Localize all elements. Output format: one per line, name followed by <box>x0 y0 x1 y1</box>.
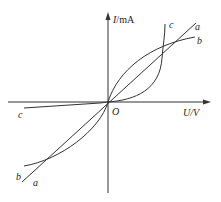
curve-b-lower-label: b <box>16 171 21 182</box>
y-axis-arrow-icon <box>106 12 111 20</box>
origin-label: O <box>112 106 119 117</box>
curve-a-lower-label: a <box>33 177 38 188</box>
y-axis-label: I/mA <box>112 14 135 25</box>
curve-c <box>24 24 165 108</box>
curve-b-upper-label: b <box>197 35 202 46</box>
curve-a-upper-label: a <box>195 21 200 32</box>
curve-c-upper-label: c <box>169 19 174 30</box>
curve-c-lower-label: c <box>18 109 23 120</box>
x-axis-label: U/V <box>183 107 201 118</box>
x-axis-arrow-icon <box>203 100 211 105</box>
iv-diagram: I/mA U/V O a a b b c c <box>0 0 221 202</box>
